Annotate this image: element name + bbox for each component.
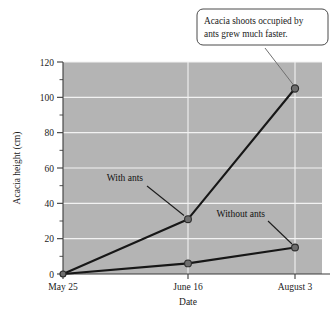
- y-axis-tick-labels: 120 100 80 60 40 20 0: [40, 58, 55, 280]
- marker-without-ants-august-3: [292, 244, 299, 251]
- series-label-without-ants: Without ants: [217, 209, 266, 219]
- x-tick-label-june-16: June 16: [173, 282, 203, 292]
- marker-without-ants-june-16: [185, 260, 192, 267]
- chart-canvas: 120 100 80 60 40 20 0 Acacia height (cm)…: [0, 0, 335, 316]
- series-label-with-ants: With ants: [107, 173, 144, 183]
- y-tick-label-20: 20: [45, 234, 55, 244]
- y-tick-label-80: 80: [45, 128, 55, 138]
- x-axis-tick-labels: May 25 June 16 August 3: [48, 282, 312, 292]
- y-tick-label-60: 60: [45, 164, 55, 174]
- x-tick-label-august-3: August 3: [278, 282, 313, 292]
- y-tick-label-120: 120: [40, 58, 55, 68]
- y-axis-title: Acacia height (cm): [12, 132, 23, 205]
- x-axis-ticks: [63, 274, 295, 279]
- y-axis-major-ticks: [57, 62, 63, 274]
- callout-box: [197, 9, 328, 45]
- callout-text-line-2: ants grew much faster.: [204, 29, 288, 39]
- x-tick-label-may-25: May 25: [48, 282, 78, 292]
- acacia-growth-chart-figure: 120 100 80 60 40 20 0 Acacia height (cm)…: [0, 0, 335, 316]
- marker-with-ants-june-16: [185, 216, 192, 223]
- callout-text-line-1: Acacia shoots occupied by: [204, 16, 304, 26]
- marker-with-ants-august-3: [291, 85, 298, 92]
- marker-with-ants-may-25: [60, 271, 66, 277]
- x-axis-title: Date: [179, 297, 197, 307]
- y-tick-label-0: 0: [49, 270, 54, 280]
- y-tick-label-40: 40: [45, 199, 55, 209]
- y-tick-label-100: 100: [40, 93, 55, 103]
